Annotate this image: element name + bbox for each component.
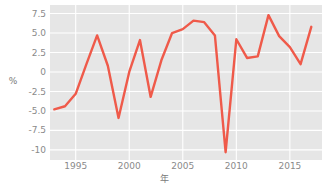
x-tick-label: 1995 — [64, 161, 87, 171]
x-axis-title: 年 — [0, 172, 328, 185]
x-tick-label: 2015 — [278, 161, 301, 171]
plot-background — [50, 5, 322, 160]
line-chart: % 7.55.02.50-2.5-5.0-7.5-10 199520002005… — [0, 0, 328, 191]
x-tick-label: 2010 — [225, 161, 248, 171]
x-tick-label: 2000 — [118, 161, 141, 171]
x-tick-label: 2005 — [171, 161, 194, 171]
